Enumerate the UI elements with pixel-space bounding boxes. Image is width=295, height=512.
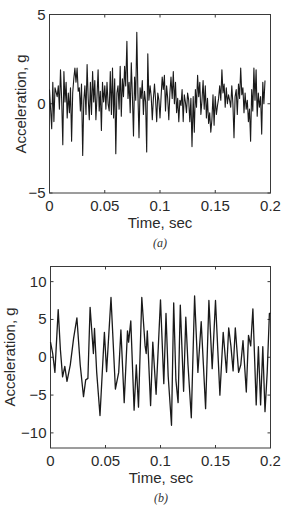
y-tick-label: 5 bbox=[38, 310, 46, 327]
y-tick-label: 0 bbox=[37, 95, 45, 112]
caption-a: (a) bbox=[153, 236, 167, 250]
y-axis-label-b: Acceleration, g bbox=[1, 307, 18, 406]
x-axis-label-b: Time, sec bbox=[129, 469, 194, 486]
x-tick-label: 0.15 bbox=[201, 452, 230, 469]
caption-b: (b) bbox=[154, 491, 168, 505]
x-tick-label: 0 bbox=[46, 452, 54, 469]
y-tick-label: 0 bbox=[38, 348, 46, 365]
panel-b: 00.050.10.150.2 −10−50510 Time, sec Acce… bbox=[1, 267, 281, 506]
x-tick-label: 0.1 bbox=[150, 197, 171, 214]
y-tick-label: −5 bbox=[28, 184, 45, 201]
y-tick-label: 10 bbox=[30, 273, 47, 290]
y-tick-label: −10 bbox=[21, 424, 46, 441]
x-axis-label-a: Time, sec bbox=[128, 214, 193, 231]
figure: 00.050.10.150.2 −505 Time, sec Accelerat… bbox=[0, 0, 295, 512]
x-tick-label: 0.1 bbox=[150, 452, 171, 469]
x-tick-label: 0.2 bbox=[260, 197, 281, 214]
y-tick-label: 5 bbox=[37, 6, 45, 23]
panel-a: 00.050.10.150.2 −505 Time, sec Accelerat… bbox=[12, 6, 281, 251]
x-tick-label: 0.05 bbox=[90, 197, 119, 214]
x-tick-label: 0.05 bbox=[91, 452, 120, 469]
x-tick-label: 0.15 bbox=[201, 197, 230, 214]
y-tick-label: −5 bbox=[29, 386, 46, 403]
x-tick-label: 0.2 bbox=[260, 452, 281, 469]
y-axis-label-a: Acceleration, g bbox=[12, 54, 29, 153]
x-tick-label: 0 bbox=[45, 197, 53, 214]
